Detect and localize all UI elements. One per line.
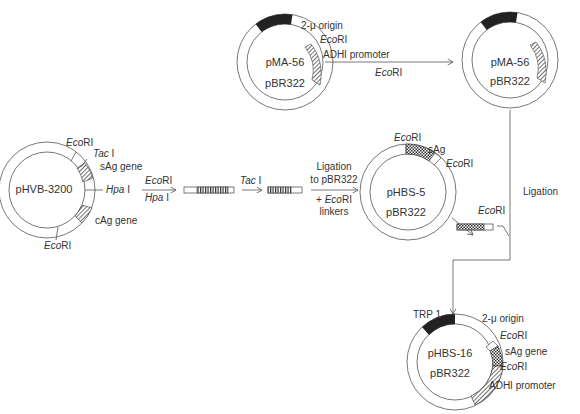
promoter-segment: [305, 44, 321, 85]
step3-line3: + EcoRI: [316, 194, 352, 205]
step3-line2: to pBR322: [310, 174, 358, 185]
origin-label: 2-μ origin: [301, 20, 343, 31]
cag-segment: [75, 205, 92, 223]
step1-enzyme2: Hpa I: [145, 192, 169, 203]
plasmid-phvb3200: pHVB-3200 EcoRI Tac I sAg gene Hpa I cAg…: [0, 137, 143, 251]
cloning-diagram: pMA-56 pBR322 2-μ origin EcoRI ADHI prom…: [0, 0, 580, 414]
plasmid-name: pHBS-5: [387, 186, 426, 198]
plasmid-backbone: pBR322: [430, 367, 470, 379]
fragment-1: [184, 187, 234, 193]
excise-enzyme: EcoRI: [478, 205, 505, 216]
plasmid-phbs16: pHBS-16 pBR322 TRP 1 2-μ origin EcoRI sA…: [407, 309, 556, 410]
plasmid-name: pMA-56: [266, 56, 305, 68]
step3-line1: Ligation: [316, 161, 351, 172]
sag-segment: [77, 163, 93, 182]
plasmid-pma56-right: pMA-56 pBR322: [462, 12, 558, 108]
plasmid-backbone: pBR322: [490, 75, 530, 87]
fragment-2: [268, 187, 302, 193]
sag-label: sAg gene: [505, 346, 548, 357]
hpai-label: Hpa I: [106, 184, 130, 195]
ecori-top-tick: [71, 152, 76, 161]
plasmid-name: pMA-56: [491, 56, 530, 68]
plasmid-name: pHVB-3200: [16, 183, 73, 195]
ecori-2-label: EcoRI: [500, 361, 527, 372]
step3-line4: linkers: [320, 206, 349, 217]
plasmid-name: pHBS-16: [428, 347, 473, 359]
fragment-connector: [497, 226, 509, 236]
taci-label: Tac I: [93, 148, 114, 159]
ecori-bottom-tick: [56, 227, 58, 240]
plasmid-backbone: pBR322: [386, 206, 426, 218]
trp1-label: TRP 1: [413, 309, 442, 320]
ecori-1-label: EcoRI: [500, 330, 527, 341]
sag-label: sAg: [428, 144, 445, 155]
plasmid-phbs5: pHBS-5 pBR322 EcoRI sAg EcoRI: [360, 132, 473, 240]
origin-segment: [256, 14, 293, 32]
promoter-segment: [530, 42, 546, 83]
origin-segment: [481, 12, 518, 30]
promoter-label: ADHI promoter: [489, 380, 556, 391]
origin-label: 2-μ origin: [482, 313, 524, 324]
ecori-right-label: EcoRI: [446, 158, 473, 169]
sag-label: sAg gene: [100, 161, 143, 172]
ecori-top-label: EcoRI: [66, 137, 93, 148]
cag-label: cAg gene: [95, 215, 138, 226]
fragment-3: [457, 224, 493, 230]
step2-enzyme: Tac I: [240, 175, 261, 186]
final-ligation-label: Ligation: [523, 186, 558, 197]
promoter-label: ADHI promoter: [323, 49, 390, 60]
ecori-left-label: EcoRI: [394, 132, 421, 143]
step-top-enzyme: EcoRI: [375, 67, 402, 78]
ecori-label: EcoRI: [320, 34, 347, 45]
step1-enzyme1: EcoRI: [145, 175, 172, 186]
ecori-bottom-label: EcoRI: [44, 240, 71, 251]
plasmid-backbone: pBR322: [265, 77, 305, 89]
